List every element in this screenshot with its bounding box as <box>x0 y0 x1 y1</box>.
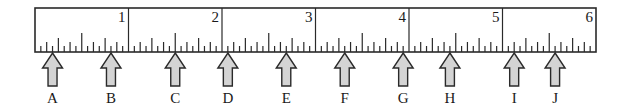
inch-label: 6 <box>586 9 594 25</box>
up-arrow-icon <box>440 53 460 86</box>
arrow-label: G <box>398 90 409 106</box>
up-arrow-icon <box>545 53 565 86</box>
inch-label: 4 <box>399 9 407 25</box>
arrow-label: E <box>282 90 291 106</box>
up-arrow-icon <box>276 53 296 86</box>
up-arrow-icon <box>393 53 413 86</box>
up-arrow-icon <box>218 53 238 86</box>
arrow-a: A <box>43 53 63 106</box>
arrow-label: C <box>170 90 180 106</box>
up-arrow-icon <box>504 53 524 86</box>
pointer-arrows: ABCDEFGHIJ <box>43 53 566 106</box>
arrow-f: F <box>335 53 355 106</box>
arrow-label: I <box>512 90 517 106</box>
arrow-c: C <box>165 53 185 106</box>
inch-label: 1 <box>118 9 126 25</box>
ruler-diagram: 123456 ABCDEFGHIJ <box>0 0 627 110</box>
arrow-h: H <box>440 53 460 106</box>
arrow-label: J <box>552 90 558 106</box>
up-arrow-icon <box>335 53 355 86</box>
arrow-j: J <box>545 53 565 106</box>
up-arrow-icon <box>101 53 121 86</box>
arrow-b: B <box>101 53 121 106</box>
up-arrow-icon <box>165 53 185 86</box>
inch-label: 2 <box>212 9 220 25</box>
arrow-e: E <box>276 53 296 106</box>
arrow-label: D <box>222 90 233 106</box>
arrow-g: G <box>393 53 413 106</box>
inch-label: 5 <box>492 9 500 25</box>
arrow-label: B <box>106 90 116 106</box>
arrow-label: H <box>444 90 455 106</box>
arrow-d: D <box>218 53 238 106</box>
arrow-label: A <box>47 90 58 106</box>
arrow-label: F <box>341 90 349 106</box>
up-arrow-icon <box>43 53 63 86</box>
inch-label: 3 <box>305 9 313 25</box>
arrow-i: I <box>504 53 524 106</box>
